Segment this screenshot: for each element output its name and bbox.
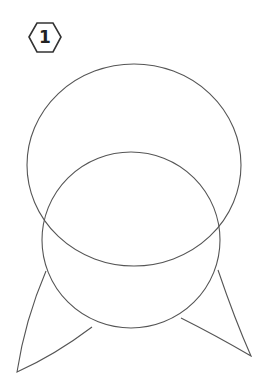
right-ear [181,270,251,356]
lower-circle [42,152,220,328]
figure-canvas: 1 [0,0,271,386]
upper-circle [27,64,241,266]
step-number: 1 [39,27,51,47]
step-badge: 1 [29,23,61,52]
left-ear [17,271,92,372]
